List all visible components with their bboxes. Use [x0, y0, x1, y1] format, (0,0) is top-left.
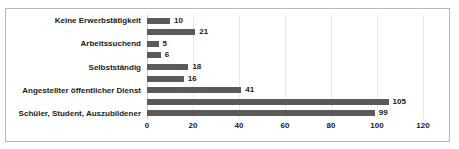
bar-value-label: 41	[245, 87, 254, 93]
bar-row[interactable]: 16	[147, 76, 197, 82]
x-tick-label: 20	[189, 121, 198, 130]
bar[interactable]	[147, 52, 161, 58]
bar[interactable]	[147, 99, 389, 105]
bar-value-label: 10	[174, 18, 183, 24]
gridline	[423, 15, 424, 119]
x-tick-label: 0	[145, 121, 149, 130]
bar-row[interactable]: 18	[147, 64, 201, 70]
bar-value-label: 5	[163, 41, 167, 47]
x-tick-label: 120	[416, 121, 429, 130]
bar-value-label: 18	[192, 64, 201, 70]
bar[interactable]	[147, 76, 184, 82]
bar-value-label: 105	[393, 99, 406, 105]
bar-row[interactable]: 105	[147, 99, 406, 105]
bar-value-label: 99	[379, 110, 388, 116]
x-tick-label: 100	[370, 121, 383, 130]
bar[interactable]	[147, 29, 195, 35]
category-label: Arbeitssuchend	[81, 39, 141, 48]
bar-row[interactable]: 41	[147, 87, 254, 93]
bar-row[interactable]: 6	[147, 52, 169, 58]
x-tick-label: 40	[235, 121, 244, 130]
category-label: Angestellter öffentlicher Dienst	[22, 86, 141, 95]
bar[interactable]	[147, 87, 241, 93]
plot-area: 10215618164110599	[147, 15, 423, 119]
bar-value-label: 21	[199, 29, 208, 35]
bar[interactable]	[147, 41, 159, 47]
bar[interactable]	[147, 64, 188, 70]
bar[interactable]	[147, 18, 170, 24]
category-label: Keine Erwerbstätigkeit	[55, 16, 141, 25]
x-axis-tick-labels: 020406080100120	[147, 121, 423, 135]
bar-row[interactable]: 10	[147, 18, 183, 24]
bar[interactable]	[147, 110, 375, 116]
category-label: Schüler, Student, Auszubildener	[19, 109, 141, 118]
category-axis-labels: Keine ErwerbstätigkeitArbeitssuchendSelb…	[6, 15, 145, 119]
category-label: Selbstständig	[89, 63, 141, 72]
bar-value-label: 6	[165, 52, 169, 58]
chart-container: 10215618164110599 Keine Erwerbstätigkeit…	[5, 8, 450, 142]
bar-series: 10215618164110599	[147, 15, 423, 119]
bar-row[interactable]: 21	[147, 29, 208, 35]
x-tick-label: 80	[327, 121, 336, 130]
bar-value-label: 16	[188, 76, 197, 82]
bar-row[interactable]: 5	[147, 41, 167, 47]
bar-row[interactable]: 99	[147, 110, 388, 116]
x-tick-label: 60	[281, 121, 290, 130]
